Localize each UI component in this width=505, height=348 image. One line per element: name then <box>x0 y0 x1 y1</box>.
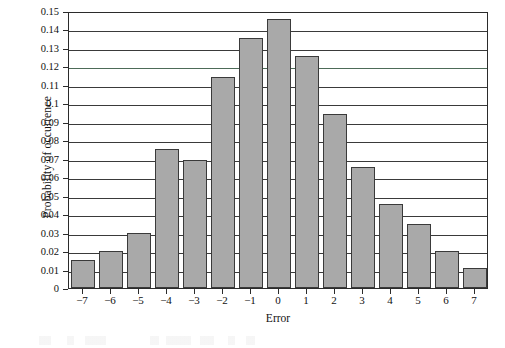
bar <box>71 260 95 288</box>
bar <box>323 114 347 289</box>
y-tick-mark <box>63 271 68 272</box>
y-tick-mark <box>63 215 68 216</box>
x-axis-ticks: −7−6−5−4−3−2−101234567 <box>68 289 488 313</box>
plot-area <box>68 12 488 289</box>
y-tick-label: 0.08 <box>0 136 59 147</box>
y-tick-label: 0.13 <box>0 44 59 55</box>
y-tick-label: 0.12 <box>0 62 59 73</box>
x-tick-label: 7 <box>454 294 494 306</box>
y-tick-mark <box>63 197 68 198</box>
y-tick-label: 0.03 <box>0 228 59 239</box>
bar <box>463 268 487 288</box>
y-tick-label: 0.05 <box>0 191 59 202</box>
bar <box>239 38 263 288</box>
y-tick-mark <box>63 49 68 50</box>
x-axis-title: Error <box>68 312 488 324</box>
y-tick-label: 0.02 <box>0 247 59 258</box>
figure-histogram-error-distribution: Probability of occurrence 0.150.140.130.… <box>0 0 505 348</box>
bar <box>155 149 179 288</box>
y-tick-mark <box>63 160 68 161</box>
caption-remnant <box>30 336 260 345</box>
bar <box>211 77 235 288</box>
y-tick-label: 0.06 <box>0 173 59 184</box>
y-tick-mark <box>63 30 68 31</box>
bar <box>183 160 207 288</box>
y-tick-mark <box>63 12 68 13</box>
y-tick-mark <box>63 234 68 235</box>
y-tick-mark <box>63 252 68 253</box>
y-tick-label: 0.15 <box>0 7 59 18</box>
y-tick-mark <box>63 123 68 124</box>
bar <box>407 224 431 288</box>
bar <box>435 251 459 288</box>
plot-inner <box>69 13 487 288</box>
y-tick-label: 0.1 <box>0 99 59 110</box>
bar <box>295 56 319 288</box>
bar <box>267 19 291 288</box>
y-tick-mark <box>63 104 68 105</box>
y-tick-label: 0.04 <box>0 210 59 221</box>
y-tick-label: 0.09 <box>0 118 59 129</box>
bar <box>99 251 123 288</box>
y-tick-label: 0.01 <box>0 265 59 276</box>
y-tick-label: 0.14 <box>0 25 59 36</box>
y-tick-mark <box>63 86 68 87</box>
y-tick-label: 0 <box>0 284 59 295</box>
y-tick-label: 0.07 <box>0 154 59 165</box>
y-tick-mark <box>63 141 68 142</box>
y-tick-label: 0.11 <box>0 81 59 92</box>
bar <box>351 167 375 288</box>
y-tick-mark <box>63 67 68 68</box>
bar <box>379 204 403 288</box>
bar <box>127 233 151 288</box>
y-tick-mark <box>63 178 68 179</box>
